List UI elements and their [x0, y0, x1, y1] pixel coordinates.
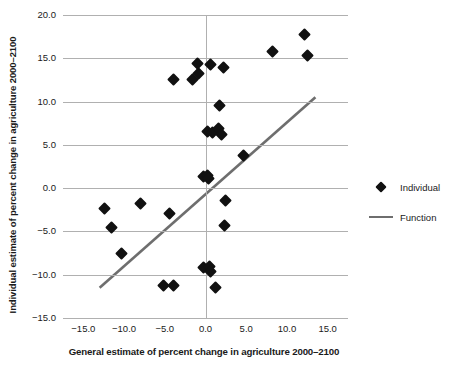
x-tick-label: 0.0 [184, 323, 228, 335]
x-tick-label: −10.0 [102, 323, 146, 335]
scatter-chart: Individual estimate of percent change in… [0, 0, 454, 371]
legend-label-function: Function [394, 212, 436, 223]
x-tick-label: 15.0 [306, 323, 350, 335]
x-tick-label: −5.0 [143, 323, 187, 335]
diamond-marker-icon [368, 183, 394, 191]
legend-item-individual[interactable]: Individual [368, 172, 454, 202]
x-tick-label: 10.0 [265, 323, 309, 335]
x-axis-tick-labels: −15.0−10.0−5.00.05.010.015.0 [63, 323, 348, 337]
x-axis-title: General estimate of percent change in ag… [58, 346, 350, 357]
y-tick-label: 0.0 [8, 183, 56, 193]
legend-item-function[interactable]: Function [368, 202, 454, 232]
y-tick-label: −5.0 [8, 226, 56, 236]
y-tick-label: 10.0 [8, 97, 56, 107]
y-tick-label: 20.0 [8, 10, 56, 20]
x-tick-label: −15.0 [61, 323, 105, 335]
line-segment-icon [368, 216, 394, 219]
y-axis-tick-labels: −15.0−10.0−5.00.05.010.015.020.0 [6, 15, 56, 318]
y-tick-label: −15.0 [8, 313, 56, 323]
chart-legend: Individual Function [368, 172, 454, 232]
plot-area [63, 15, 348, 318]
legend-label-individual: Individual [394, 182, 440, 193]
x-tick-label: 5.0 [224, 323, 268, 335]
y-tick-label: −10.0 [8, 270, 56, 280]
y-tick-label: 15.0 [8, 53, 56, 63]
gridline-y [63, 318, 348, 319]
y-tick-label: 5.0 [8, 140, 56, 150]
